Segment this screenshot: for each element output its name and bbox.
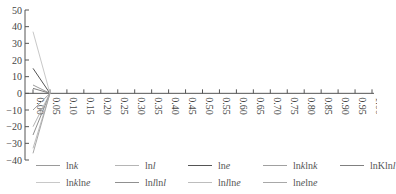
x-tick-label: 0.70 [272, 97, 283, 115]
x-tick-label: 0.15 [85, 97, 96, 115]
x-tick-label: 0.85 [323, 97, 334, 115]
x-tick-label: 0.45 [187, 97, 198, 115]
series-group [33, 32, 50, 154]
x-tick-label: 0.25 [119, 97, 130, 115]
y-tick-label: −30 [6, 138, 22, 149]
y-tick-label: −40 [6, 155, 22, 166]
x-tick-label: 0.20 [102, 97, 113, 115]
series-line-lnklne [33, 32, 50, 94]
x-tick-label: 0.60 [238, 97, 249, 115]
y-tick-label: 10 [12, 71, 22, 82]
axes: 50403020100−10−20−30−400.000.050.100.150… [6, 5, 377, 166]
y-tick-label: 50 [12, 5, 22, 16]
x-tick-label: 0.55 [221, 97, 232, 115]
y-tick-label: −20 [6, 121, 22, 132]
y-tick-label: −10 [6, 105, 22, 116]
x-tick-label: 0.95 [357, 97, 368, 115]
x-tick-label: 0.50 [204, 97, 215, 115]
x-tick-label: 0.35 [153, 97, 164, 115]
y-tick-label: 30 [12, 38, 22, 49]
x-tick-label: 0.80 [306, 97, 317, 115]
x-tick-label: 0.05 [51, 97, 62, 115]
y-tick-label: 20 [12, 55, 22, 66]
x-tick-label: 0.75 [289, 97, 300, 115]
x-tick-label: 1.00 [374, 97, 378, 115]
y-tick-label: 0 [17, 88, 22, 99]
x-tick-label: 0.40 [170, 97, 181, 115]
x-tick-label: 0.30 [136, 97, 147, 115]
y-tick-label: 40 [12, 21, 22, 32]
x-tick-label: 0.90 [340, 97, 351, 115]
x-tick-label: 0.65 [255, 97, 266, 115]
x-tick-label: 0.10 [68, 97, 79, 115]
